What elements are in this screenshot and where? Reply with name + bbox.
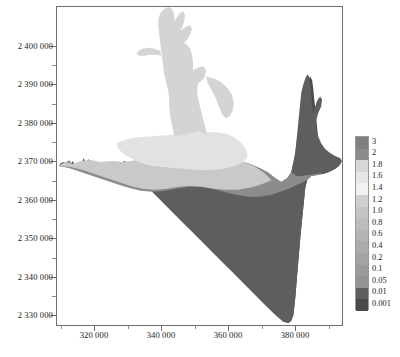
colorbar-swatch-0.05 — [356, 276, 368, 288]
colorbar-swatch-1.4 — [356, 183, 368, 195]
colorbar-swatch-0.001 — [356, 299, 368, 311]
ytick-label-2400000: 2 400 000 — [18, 41, 53, 51]
xtick-minor — [61, 326, 62, 329]
ytick-label-2370000: 2 370 000 — [18, 156, 53, 166]
colorbar-label-1.8: 1.8 — [372, 161, 382, 169]
ytick-label-2360000: 2 360 000 — [18, 195, 53, 205]
xtick-label-340000: 340 000 — [147, 330, 176, 340]
xtick-label-380000: 380 000 — [281, 330, 310, 340]
colorbar-label-2: 2 — [372, 149, 376, 157]
colorbar-swatch-1.6 — [356, 172, 368, 184]
colorbar-label-1.6: 1.6 — [372, 172, 382, 180]
ytick-minor — [52, 181, 56, 182]
colorbar-label-1.0: 1.0 — [372, 207, 382, 215]
region-estuary-channel — [158, 7, 208, 136]
ytick-minor — [52, 65, 56, 66]
colorbar-label-0.4: 0.4 — [372, 242, 382, 250]
xtick-minor — [329, 326, 330, 329]
colorbar-swatch-1.8 — [356, 160, 368, 172]
colorbar-swatch-0.01 — [356, 288, 368, 300]
xtick-label-360000: 360 000 — [214, 330, 243, 340]
colorbar — [355, 136, 369, 310]
colorbar-swatch-1.0 — [356, 207, 368, 219]
colorbar-label-1.2: 1.2 — [372, 196, 382, 204]
ytick-minor — [52, 104, 56, 105]
colorbar-label-0.05: 0.05 — [372, 277, 387, 285]
colorbar-swatch-0.6 — [356, 230, 368, 242]
figure-container: 2 400 000 2 390 000 2 380 000 2 370 000 … — [0, 0, 400, 357]
xtick-label-320000: 320 000 — [80, 330, 109, 340]
colorbar-swatch-0.4 — [356, 241, 368, 253]
xtick-minor — [128, 326, 129, 329]
xtick-minor — [195, 326, 196, 329]
plot-area — [56, 6, 343, 326]
ytick-minor — [52, 142, 56, 143]
colorbar-swatch-1.2 — [356, 195, 368, 207]
map-marker-speck — [250, 160, 252, 162]
ytick-label-2380000: 2 380 000 — [18, 118, 53, 128]
colorbar-label-0.01: 0.01 — [372, 288, 387, 296]
colorbar-swatch-3 — [356, 137, 368, 149]
contour-map-svg — [57, 7, 342, 325]
colorbar-label-0.1: 0.1 — [372, 265, 382, 273]
ytick-label-2340000: 2 340 000 — [18, 272, 53, 282]
colorbar-swatch-0.8 — [356, 218, 368, 230]
colorbar-label-3: 3 — [372, 138, 376, 146]
colorbar-swatch-2 — [356, 149, 368, 161]
colorbar-label-0.001: 0.001 — [372, 300, 391, 308]
colorbar-label-0.8: 0.8 — [372, 219, 382, 227]
ytick-label-2390000: 2 390 000 — [18, 79, 53, 89]
region-estuary-branch-west — [136, 48, 161, 56]
colorbar-swatch-0.1 — [356, 265, 368, 277]
figure-caption — [60, 345, 340, 355]
ytick-label-2350000: 2 350 000 — [18, 233, 53, 243]
colorbar-label-0.2: 0.2 — [372, 254, 382, 262]
colorbar-labels: 321.81.61.41.21.00.80.60.40.20.10.050.01… — [372, 136, 400, 310]
ytick-minor — [52, 296, 56, 297]
colorbar-label-1.4: 1.4 — [372, 184, 382, 192]
ytick-label-2330000: 2 330 000 — [18, 310, 53, 320]
ytick-minor — [52, 258, 56, 259]
colorbar-label-0.6: 0.6 — [372, 230, 382, 238]
colorbar-swatch-0.2 — [356, 253, 368, 265]
xtick-minor — [262, 326, 263, 329]
region-estuary-branch-east — [206, 77, 234, 119]
ytick-minor — [52, 219, 56, 220]
